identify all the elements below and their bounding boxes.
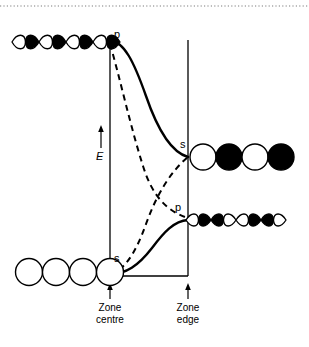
zone-edge-tick-arrow — [185, 283, 191, 299]
band-label-p-bottom-right: p — [175, 201, 181, 214]
band-structure-figure: p s s p E Zone centre Zone edge — [0, 0, 309, 347]
plot-frame — [110, 40, 188, 276]
band-label-s-top-right: s — [180, 138, 186, 151]
upper-hybrid-band-solid-curve — [110, 41, 188, 157]
p-orbitals-zone-edge-chain — [186, 214, 286, 226]
band-label-s-bottom-left: s — [114, 252, 120, 265]
zone-edge-label: Zone edge — [177, 302, 200, 325]
unhybridised-s-band-dashed-curve — [110, 157, 188, 274]
zone-edge-label-line1: Zone — [177, 302, 200, 314]
zone-centre-label-line2: centre — [96, 314, 124, 326]
band-label-p-top-left: p — [114, 28, 120, 41]
zone-centre-label: Zone centre — [96, 302, 124, 325]
diagram-canvas — [0, 0, 309, 347]
zone-centre-label-line1: Zone — [96, 302, 124, 314]
unhybridised-p-band-dashed-curve — [110, 44, 188, 218]
p-orbitals-zone-centre-chain — [12, 35, 120, 49]
zone-edge-label-line2: edge — [177, 314, 200, 326]
energy-axis-label: E — [96, 150, 103, 163]
s-orbitals-zone-edge-chain — [190, 144, 294, 170]
energy-axis-arrow — [98, 125, 104, 148]
s-orbitals-zone-centre-chain — [16, 259, 124, 286]
